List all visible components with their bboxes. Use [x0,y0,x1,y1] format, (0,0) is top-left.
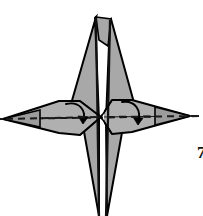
origami-diagram-canvas [0,0,203,216]
step-number-label: 7 [197,144,203,161]
origami-diagram-figure: 7 [0,0,203,216]
